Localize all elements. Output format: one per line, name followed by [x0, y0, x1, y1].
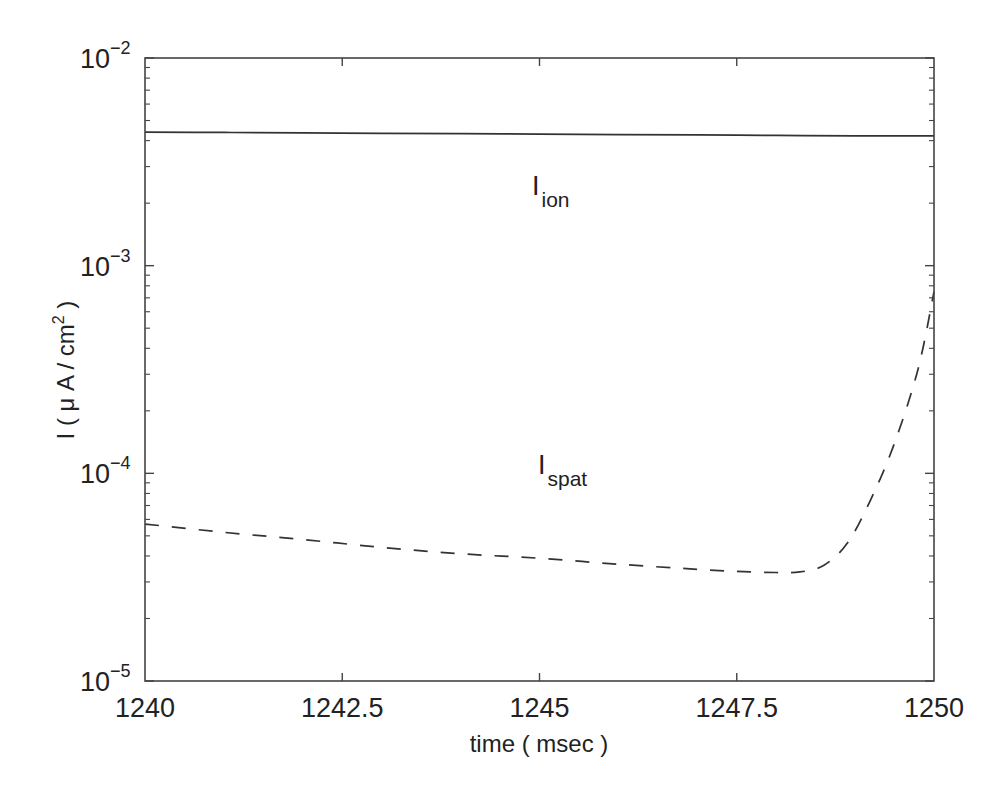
y-tick-label: 10−3 — [80, 246, 131, 282]
x-tick-label: 1242.5 — [301, 693, 384, 723]
y-tick-label: 10−4 — [80, 453, 131, 489]
annotation-i-ion-main: I — [532, 171, 540, 201]
series-i-spat — [145, 292, 934, 573]
y-axis-title-sup: 2 — [50, 315, 67, 324]
annotation-i-ion-sub: ion — [542, 188, 570, 211]
series-i-ion — [145, 132, 934, 136]
annotation-i-spat: Ispat — [538, 450, 587, 490]
y-axis-title: I ( μ A / cm2 ) — [50, 301, 79, 440]
x-axis-title: time ( msec ) — [470, 730, 609, 757]
annotation-i-spat-main: I — [538, 450, 546, 480]
x-tick-label: 1240 — [115, 693, 175, 723]
y-axis-ticks: 10−210−310−410−5 — [80, 38, 934, 697]
y-axis-title-suffix: ) — [52, 301, 79, 316]
y-tick-label: 10−2 — [80, 38, 131, 74]
annotation-i-ion: Iion — [532, 171, 570, 211]
plot-frame — [145, 58, 934, 681]
x-tick-label: 1247.5 — [695, 693, 778, 723]
y-tick-label: 10−5 — [80, 661, 131, 697]
annotation-i-spat-sub: spat — [548, 467, 588, 490]
x-tick-label: 1245 — [509, 693, 569, 723]
chart: 12401242.512451247.51250 10−210−310−410−… — [0, 0, 996, 789]
x-axis-ticks: 12401242.512451247.51250 — [115, 58, 964, 723]
y-axis-title-prefix: I ( μ A / cm — [52, 324, 79, 439]
x-tick-label: 1250 — [904, 693, 964, 723]
